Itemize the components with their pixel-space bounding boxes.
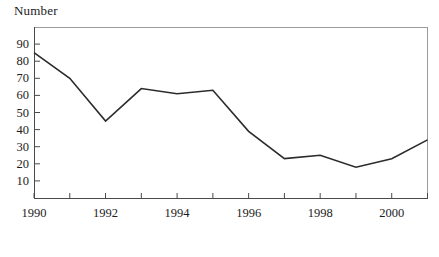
- y-axis-tick-label: 90: [1, 38, 29, 51]
- y-axis-tick-label: 20: [1, 158, 29, 171]
- x-axis-tick-label: 1992: [83, 207, 129, 220]
- y-axis-tick-label: 40: [1, 124, 29, 137]
- data-series-line: [34, 53, 428, 168]
- y-axis-tick-label: 50: [1, 107, 29, 120]
- line-chart-figure: Number 102030405060708090 19901992199419…: [0, 0, 439, 257]
- y-axis-tick-marks: [34, 44, 40, 181]
- y-axis-tick-label: 60: [1, 89, 29, 102]
- y-axis-tick-label: 10: [1, 175, 29, 188]
- y-axis-tick-label: 70: [1, 72, 29, 85]
- x-axis-tick-label: 1994: [154, 207, 200, 220]
- x-axis-tick-label: 1998: [297, 207, 343, 220]
- y-axis-tick-label: 80: [1, 55, 29, 68]
- x-axis-tick-marks: [34, 193, 428, 198]
- y-axis-tick-label: 30: [1, 141, 29, 154]
- x-axis-tick-label: 1996: [226, 207, 272, 220]
- x-axis-tick-label: 1990: [11, 207, 57, 220]
- x-axis-tick-label: 2000: [369, 207, 415, 220]
